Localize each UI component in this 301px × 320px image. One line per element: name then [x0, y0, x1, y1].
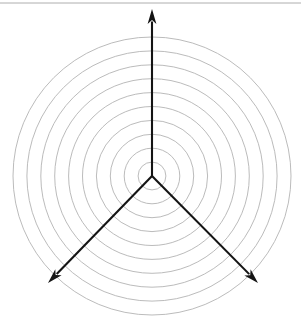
polar-grid-canvas: [0, 0, 301, 320]
polar-grid-figure: [0, 0, 301, 320]
figure-background: [0, 0, 301, 320]
